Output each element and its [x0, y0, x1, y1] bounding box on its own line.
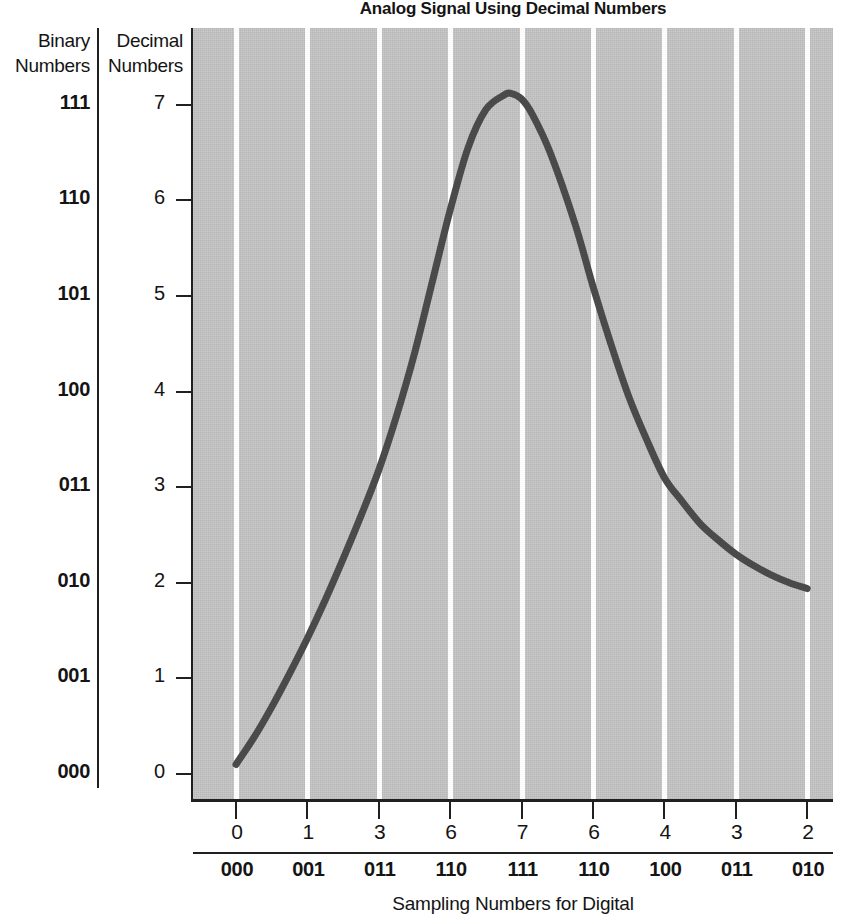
y-axis-tick-mark [176, 199, 192, 201]
x-axis-tick-mark [235, 802, 237, 819]
y-axis-binary-label-111: 111 [0, 91, 90, 114]
plot-area [193, 28, 833, 800]
y-axis-tick-mark [176, 391, 192, 393]
y-axis-decimal-label-7: 7 [103, 91, 165, 114]
binary-header-line-1: Binary [0, 28, 90, 53]
y-axis-decimal-label-0: 0 [103, 760, 165, 783]
decimal-header-line-2: Numbers [103, 53, 183, 78]
decimal-numbers-column-header: Decimal Numbers [103, 28, 183, 78]
x-axis-decimal-label-2: 3 [350, 820, 410, 844]
x-axis-tick-mark [592, 802, 594, 819]
binary-numbers-column-header: Binary Numbers [0, 28, 90, 78]
analog-signal-chart-figure: Analog Signal Using Decimal Numbers Bina… [0, 0, 849, 920]
x-axis-tick-mark [378, 802, 380, 819]
y-axis-tick-mark [176, 677, 192, 679]
y-axis-decimal-label-6: 6 [103, 186, 165, 209]
y-axis-tick-mark [176, 582, 192, 584]
x-axis-tick-mark [735, 802, 737, 819]
y-axis-decimal-label-2: 2 [103, 569, 165, 592]
chart-title: Analog Signal Using Decimal Numbers [193, 0, 833, 19]
y-axis-tick-mark [176, 104, 192, 106]
analog-signal-curve [236, 93, 807, 765]
x-axis-binary-label-2: 011 [342, 858, 418, 881]
x-axis-binary-label-6: 100 [627, 858, 703, 881]
y-axis-binary-label-110: 110 [0, 186, 90, 209]
binary-header-line-2: Numbers [0, 53, 90, 78]
x-axis-decimal-label-0: 0 [207, 820, 267, 844]
y-axis-binary-label-101: 101 [0, 282, 90, 305]
y-axis-binary-label-001: 001 [0, 664, 90, 687]
x-axis-binary-label-7: 011 [699, 858, 775, 881]
y-axis-tick-mark [176, 295, 192, 297]
x-axis-tick-mark [449, 802, 451, 819]
x-axis-tick-mark [521, 802, 523, 819]
y-axis-decimal-label-3: 3 [103, 473, 165, 496]
x-axis-decimal-label-5: 6 [564, 820, 624, 844]
x-axis-binary-label-4: 111 [485, 858, 561, 881]
x-axis-decimal-label-7: 3 [707, 820, 767, 844]
y-axis-decimal-label-5: 5 [103, 282, 165, 305]
y-axis-binary-label-100: 100 [0, 378, 90, 401]
x-axis-tick-mark [806, 802, 808, 819]
y-axis-decimal-label-4: 4 [103, 378, 165, 401]
y-axis-binary-label-000: 000 [0, 760, 90, 783]
y-axis-tick-mark [176, 773, 192, 775]
x-axis-binary-label-8: 010 [770, 858, 846, 881]
x-axis-binary-label-5: 110 [556, 858, 632, 881]
y-axis-decimal-label-1: 1 [103, 664, 165, 687]
y-axis-binary-label-011: 011 [0, 473, 90, 496]
x-axis-decimal-label-6: 4 [635, 820, 695, 844]
x-axis-decimal-label-3: 6 [421, 820, 481, 844]
x-axis-binary-label-3: 110 [413, 858, 489, 881]
x-axis-tick-mark [306, 802, 308, 819]
x-axis-binary-label-0: 000 [199, 858, 275, 881]
column-divider [97, 28, 99, 788]
x-axis-decimal-label-4: 7 [493, 820, 553, 844]
x-axis-decimal-label-8: 2 [778, 820, 838, 844]
signal-curve-svg [193, 28, 833, 800]
y-axis-binary-label-010: 010 [0, 569, 90, 592]
x-axis-caption: Sampling Numbers for Digital [193, 893, 833, 915]
x-axis-binary-label-1: 001 [270, 858, 346, 881]
x-axis-tick-mark [663, 802, 665, 819]
decimal-header-line-1: Decimal [103, 28, 183, 53]
y-axis-tick-mark [176, 486, 192, 488]
x-axis-decimal-label-1: 1 [278, 820, 338, 844]
x-axis-separator-line [193, 852, 833, 854]
